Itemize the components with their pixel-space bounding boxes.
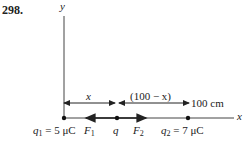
x-axis-label: x bbox=[237, 110, 242, 122]
force-f2-label: F2 bbox=[133, 124, 144, 138]
y-axis-label: y bbox=[60, 0, 65, 12]
charge-q1-label: q1 = 5 μC bbox=[33, 124, 76, 138]
total-length-label: 100 cm bbox=[191, 97, 224, 109]
charge-q-point bbox=[115, 116, 119, 120]
dimension-x-label: x bbox=[86, 90, 91, 102]
charge-q2-label: q2 = 7 μC bbox=[161, 124, 204, 138]
charge-q-label: q bbox=[113, 124, 119, 136]
force-f1-label: F1 bbox=[84, 124, 95, 138]
charge-q1-point bbox=[62, 116, 66, 120]
dimension-100-minus-x-label: (100 − x) bbox=[130, 90, 171, 102]
charge-q2-point bbox=[186, 116, 190, 120]
